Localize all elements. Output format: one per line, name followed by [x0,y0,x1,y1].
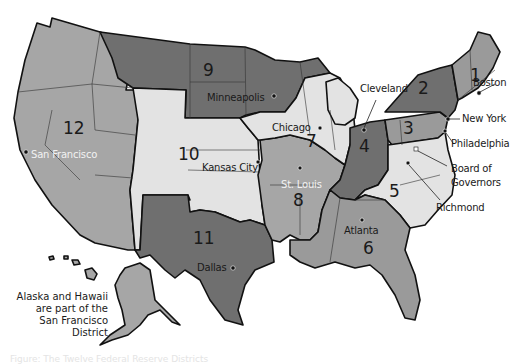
new-york-dot [446,117,450,121]
district-number-5: 5 [389,183,400,200]
dallas-dot [231,266,235,270]
district-number-9: 9 [203,62,214,79]
district-number-10: 10 [178,146,200,163]
alaska-hawaii-note: Alaska and Hawaii are part of the San Fr… [8,291,108,339]
richmond-dot [406,161,410,165]
hawaii-region [85,268,97,280]
district-number-6: 6 [363,240,374,257]
label-richmond: Richmond [436,203,485,213]
district-number-11: 11 [193,230,215,247]
label-philadelphia: Philadelphia [451,139,510,149]
cleveland-dot [362,128,366,132]
hawaii-island [49,256,54,260]
label-dallas: Dallas [197,263,227,273]
note-line-2: are part of the [8,303,108,315]
label-board-of: Board of [451,164,492,174]
label-minneapolis: Minneapolis [207,93,264,103]
label-boston: Boston [473,78,506,88]
hawaii-island [72,260,80,265]
philadelphia-dot [443,129,447,133]
label-cleveland: Cleveland [360,84,408,94]
label-st-louis: St. Louis [281,180,322,190]
figure-caption: Figure: The Twelve Federal Reserve Distr… [10,354,208,364]
label-san-francisco: San Francisco [31,150,97,160]
label-atlanta: Atlanta [344,226,378,236]
label-chicago: Chicago [272,123,311,133]
label-governors: Governors [451,178,501,188]
alaska-region [100,263,180,345]
note-line-1: Alaska and Hawaii [8,291,108,303]
chicago-dot [318,126,322,130]
label-kansas-city: Kansas City [202,163,258,173]
district-number-8: 8 [293,192,304,209]
district-number-7: 7 [306,133,317,150]
label-new-york: New York [462,114,506,124]
board-of-governors-marker [414,147,418,151]
san-francisco-dot [24,150,28,154]
note-line-3: San Francisco District [8,315,108,339]
district-number-4: 4 [359,138,370,155]
atlanta-dot [360,218,364,222]
st-louis-dot [298,166,302,170]
hawaii-island [64,256,68,259]
district-number-2: 2 [418,80,429,97]
district-number-12: 12 [63,120,85,137]
district-number-3: 3 [403,120,414,137]
minneapolis-dot [272,94,276,98]
